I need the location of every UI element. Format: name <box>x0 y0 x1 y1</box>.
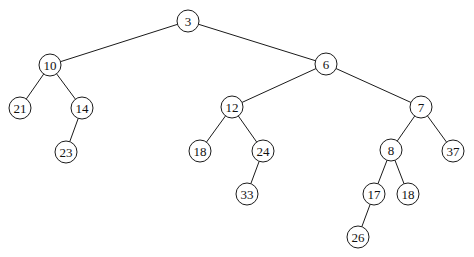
node-label: 18 <box>402 187 415 202</box>
node-label: 23 <box>60 145 73 160</box>
tree-node-7: 7 <box>410 96 432 118</box>
node-label: 12 <box>226 100 239 115</box>
node-label: 37 <box>447 144 461 159</box>
node-label: 14 <box>76 101 90 116</box>
edge-24-33 <box>251 161 259 183</box>
edge-8-18 <box>395 160 404 183</box>
edge-3-10 <box>60 24 177 61</box>
tree-node-8: 8 <box>380 139 402 161</box>
tree-node-37: 37 <box>442 140 464 162</box>
edge-8-17 <box>378 160 387 183</box>
node-label: 3 <box>185 14 192 29</box>
edge-10-14 <box>57 74 76 99</box>
tree-node-10: 10 <box>39 54 61 76</box>
tree-node-23: 23 <box>55 141 77 163</box>
tree-node-18: 18 <box>189 140 211 162</box>
edge-12-18 <box>206 116 225 142</box>
tree-node-6: 6 <box>315 53 337 75</box>
node-label: 33 <box>241 187 254 202</box>
node-label: 10 <box>44 58 57 73</box>
tree-node-26: 26 <box>347 226 369 248</box>
node-label: 24 <box>257 144 271 159</box>
node-label: 17 <box>368 187 382 202</box>
tree-node-3: 3 <box>177 10 199 32</box>
node-label: 8 <box>388 143 395 158</box>
edge-17-26 <box>362 204 370 226</box>
tree-diagram: 3106211412723182483733171826 <box>0 0 474 257</box>
node-label: 18 <box>194 144 207 159</box>
edge-7-8 <box>397 116 414 141</box>
edge-6-7 <box>336 69 411 103</box>
node-label: 21 <box>14 101 27 116</box>
node-label: 6 <box>323 57 330 72</box>
edge-3-6 <box>199 24 316 60</box>
tree-node-24: 24 <box>252 140 274 162</box>
tree-node-17: 17 <box>363 183 385 205</box>
node-label: 26 <box>352 230 366 245</box>
edge-14-23 <box>70 118 78 141</box>
tree-node-12: 12 <box>221 96 243 118</box>
edge-7-37 <box>427 116 446 142</box>
tree-node-33: 33 <box>236 183 258 205</box>
edge-12-24 <box>238 116 256 142</box>
tree-nodes: 3106211412723182483733171826 <box>9 10 464 248</box>
tree-node-21: 21 <box>9 97 31 119</box>
edge-6-12 <box>242 69 316 103</box>
edge-10-21 <box>26 74 43 99</box>
tree-node-14: 14 <box>71 97 93 119</box>
node-label: 7 <box>418 100 425 115</box>
tree-node-18: 18 <box>397 183 419 205</box>
